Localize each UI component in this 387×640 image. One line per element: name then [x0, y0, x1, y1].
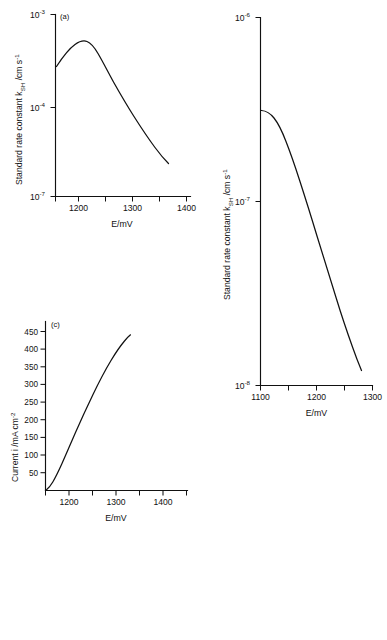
panel-b-y-axis-title: Standard rate constant kSH /cm s-1 — [221, 169, 234, 300]
panel-c-yticklabel-150: 150 — [24, 433, 38, 442]
panel-a-y-axis-title-unit: /cm s — [14, 60, 24, 83]
panel-c-xticklabel-1400: 1400 — [153, 497, 172, 507]
panel-b-yticklabel-0-exp: -6 — [245, 11, 251, 18]
panel-c-yticklabel-50: 50 — [29, 469, 39, 478]
panel-c-yticklabel-450: 450 — [24, 328, 38, 337]
panel-c-curve — [47, 335, 131, 490]
panel-b-plot: 10-6 10-7 10-8 1100 1200 1300 E/mV Stand… — [218, 0, 387, 460]
panel-a-yticklabel-0-exp: -3 — [40, 8, 46, 15]
panel-b-xticklabel-1300: 1300 — [363, 392, 382, 402]
panel-b-y-axis-title-unit: /cm s — [222, 175, 232, 198]
panel-c-yticklabel-350: 350 — [24, 363, 38, 372]
panel-c-label: (c) — [51, 320, 60, 329]
panel-a-yticklabel-2-exp: -7 — [40, 190, 46, 197]
panel-c-yticklabel-300: 300 — [24, 380, 38, 389]
panel-c-yticklabel-250: 250 — [24, 398, 38, 407]
panel-a-yticklabel-1-exp: -4 — [40, 101, 46, 108]
panel-a-y-axis-title: Standard rate constant kSH /cm s-1 — [13, 54, 26, 185]
panel-a-y-axis-title-sub: SH — [19, 83, 26, 92]
panel-c-x-axis-title: E/mV — [105, 513, 127, 523]
panel-a-xticklabel-1400: 1400 — [177, 203, 196, 213]
panel-a-curve — [57, 41, 169, 164]
panel-c-yticklabel-100: 100 — [24, 451, 38, 460]
panel-a-x-axis-title: E/mV — [111, 219, 133, 229]
panel-b-yticklabel-2-exp: -8 — [245, 379, 251, 386]
panel-b-yticklabel-1-exp: -7 — [245, 195, 251, 202]
panel-a-y-axis-title-exp: -1 — [13, 54, 20, 60]
panel-c-y-axis-title-exp: -2 — [9, 412, 16, 418]
panel-b-x-axis-title: E/mV — [306, 408, 328, 418]
figure-root: 10-3 10-4 10-7 1200 1300 1400 E/mV Stand… — [0, 0, 387, 640]
panel-b-xticklabel-1200: 1200 — [307, 392, 326, 402]
panel-b-y-axis-title-sub: SH — [227, 198, 234, 207]
panel-b-xticklabel-1100: 1100 — [251, 392, 270, 402]
panel-c-y-axis-title: Current i /mA cm-2 — [9, 412, 20, 482]
panel-b-yticklabel-1: 10-7 — [235, 195, 251, 207]
panel-a-xticklabel-1300: 1300 — [123, 203, 142, 213]
panel-a-yticklabel-2: 10-7 — [30, 190, 46, 202]
panel-b-y-axis-title-exp: -1 — [221, 169, 228, 175]
panel-a-xticklabel-1200: 1200 — [69, 203, 88, 213]
panel-c: 450 400 350 300 250 200 150 100 50 1200 … — [0, 310, 210, 530]
panel-b-yticklabel-0: 10-6 — [235, 11, 251, 23]
panel-a: 10-3 10-4 10-7 1200 1300 1400 E/mV Stand… — [0, 0, 210, 245]
panel-c-xticklabel-1300: 1300 — [106, 497, 125, 507]
panel-a-label: (a) — [60, 12, 70, 21]
panel-c-yticklabel-400: 400 — [24, 345, 38, 354]
panel-c-xticklabel-1200: 1200 — [59, 497, 78, 507]
panel-b-curve — [262, 111, 362, 371]
panel-a-plot: 10-3 10-4 10-7 1200 1300 1400 E/mV Stand… — [0, 0, 210, 245]
panel-b: 10-6 10-7 10-8 1100 1200 1300 E/mV Stand… — [218, 0, 387, 460]
panel-c-plot: 450 400 350 300 250 200 150 100 50 1200 … — [0, 310, 210, 530]
panel-a-yticklabel-1: 10-4 — [30, 101, 46, 113]
panel-b-yticklabel-2: 10-8 — [235, 379, 251, 391]
panel-a-yticklabel-0: 10-3 — [30, 8, 46, 20]
panel-c-yticklabel-200: 200 — [24, 416, 38, 425]
